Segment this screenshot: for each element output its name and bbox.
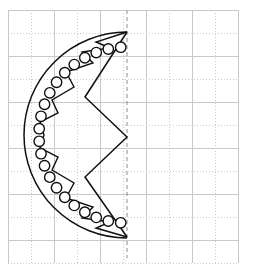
bead-circle bbox=[39, 99, 49, 109]
bead-circle bbox=[45, 172, 55, 182]
bead-circle bbox=[36, 111, 46, 121]
bead-circle bbox=[34, 136, 44, 146]
bead-circle bbox=[69, 200, 79, 210]
bead-circle bbox=[80, 207, 90, 217]
bead-circle bbox=[45, 88, 55, 98]
bead-circle bbox=[69, 59, 79, 69]
bead-circle bbox=[60, 192, 70, 202]
diagram-canvas bbox=[0, 0, 255, 266]
bead-circle bbox=[103, 216, 113, 226]
bead-circle bbox=[36, 149, 46, 159]
figure-svg bbox=[0, 0, 255, 266]
bead-circle bbox=[103, 44, 113, 54]
bead-circle bbox=[51, 77, 61, 87]
bead-circle bbox=[116, 218, 126, 228]
bead-circle bbox=[80, 53, 90, 63]
bead-circle bbox=[51, 183, 61, 193]
bead-circle bbox=[34, 124, 44, 134]
bead-circle bbox=[39, 161, 49, 171]
bead-circle bbox=[91, 212, 101, 222]
bead-circle bbox=[60, 68, 70, 78]
bead-circle bbox=[116, 42, 126, 52]
bead-circle bbox=[91, 47, 101, 57]
